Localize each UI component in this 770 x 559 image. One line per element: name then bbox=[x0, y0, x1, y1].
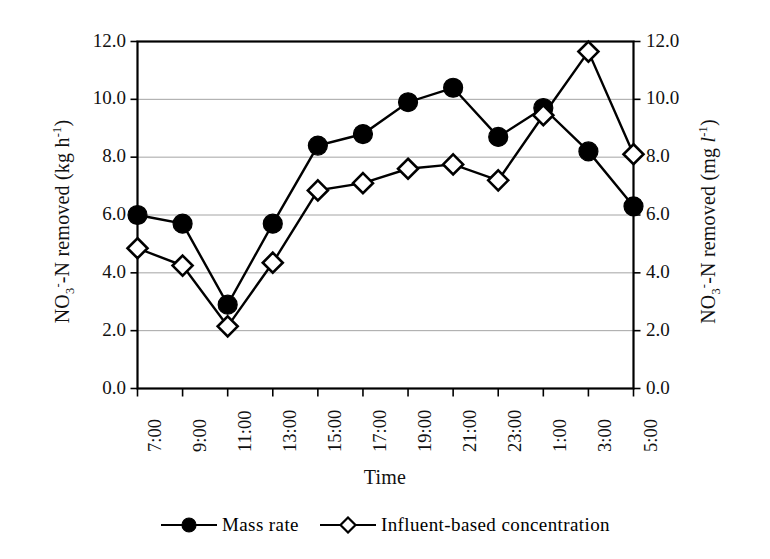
legend-marker-open-diamond-icon bbox=[319, 516, 377, 534]
plot-area bbox=[0, 0, 770, 559]
data-point bbox=[579, 142, 598, 161]
data-point bbox=[624, 144, 644, 164]
data-point bbox=[624, 197, 643, 216]
data-point bbox=[263, 253, 283, 273]
data-point bbox=[128, 238, 148, 258]
data-point bbox=[489, 127, 508, 146]
data-point bbox=[488, 170, 508, 190]
data-point bbox=[218, 316, 238, 336]
legend-entry: Mass rate bbox=[160, 513, 299, 537]
legend-diamond-icon bbox=[340, 518, 355, 533]
legend-label: Influent-based concentration bbox=[381, 514, 610, 536]
data-point bbox=[444, 78, 463, 97]
series-2-markers bbox=[128, 42, 644, 337]
data-point bbox=[399, 93, 418, 112]
legend-entry: Influent-based concentration bbox=[319, 513, 610, 537]
data-point bbox=[398, 159, 418, 179]
data-point bbox=[353, 125, 372, 144]
legend-label: Mass rate bbox=[222, 514, 299, 536]
legend-marker-filled-circle-icon bbox=[160, 516, 218, 534]
data-point bbox=[308, 136, 327, 155]
data-point bbox=[218, 295, 237, 314]
data-point bbox=[578, 42, 598, 62]
data-point bbox=[128, 206, 147, 225]
series-line bbox=[138, 52, 634, 327]
data-point bbox=[173, 214, 192, 233]
series-1-markers bbox=[128, 78, 643, 314]
data-point bbox=[263, 214, 282, 233]
series-line bbox=[138, 88, 634, 305]
series-1 bbox=[138, 88, 634, 305]
data-point bbox=[308, 180, 328, 200]
legend-circle-icon bbox=[182, 518, 196, 532]
data-point bbox=[353, 173, 373, 193]
chart-legend: Mass rateInfluent-based concentration bbox=[0, 512, 770, 536]
series-2 bbox=[138, 52, 634, 327]
chart-figure: NO3--N removed (kg h-1) NO3--N removed (… bbox=[0, 0, 770, 559]
